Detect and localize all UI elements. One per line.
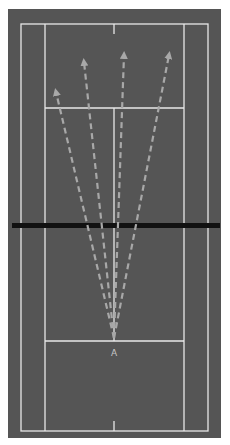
origin-label: A [111,348,118,358]
net [12,223,220,228]
court-diagram: A [0,0,230,445]
